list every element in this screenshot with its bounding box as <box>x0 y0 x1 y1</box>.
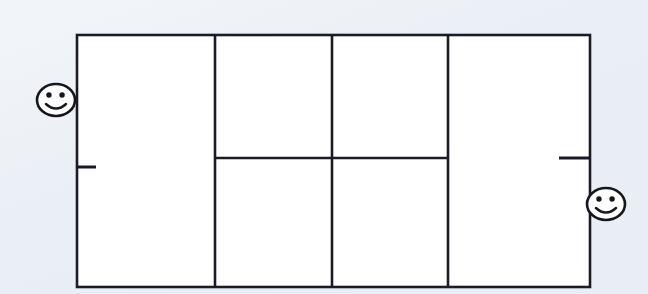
player-left-eye-left-icon <box>46 92 51 97</box>
player-right <box>587 188 625 220</box>
player-right-eye-left-icon <box>596 196 601 201</box>
player-left-eye-right-icon <box>59 92 64 97</box>
player-right-eye-right-icon <box>609 196 614 201</box>
court-outline <box>77 35 590 287</box>
court-drawing <box>0 0 648 294</box>
tennis-court-diagram <box>0 0 648 294</box>
player-left <box>37 84 75 116</box>
player-left-head-icon <box>37 84 75 116</box>
player-right-head-icon <box>587 188 625 220</box>
